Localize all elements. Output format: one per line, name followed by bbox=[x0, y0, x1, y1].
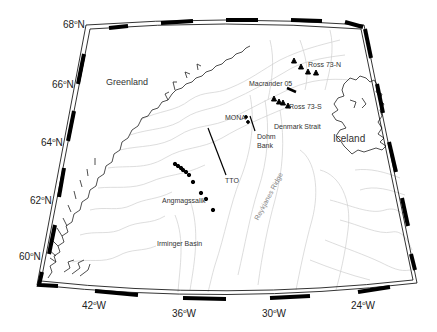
iceland-label: Iceland bbox=[333, 134, 365, 144]
lon-label-24w: 24oW bbox=[351, 300, 375, 311]
dohm-bank-label-line1: Dohm bbox=[257, 133, 276, 140]
lon-label-36w: 36oW bbox=[172, 308, 196, 319]
ross-73-s-label: Ross 73-S bbox=[289, 103, 322, 110]
tto-section-line bbox=[208, 128, 226, 175]
lat-label-62n: 62oN bbox=[30, 195, 52, 206]
denmark-strait-label: Denmark Strait bbox=[274, 123, 321, 130]
tto-label: TTO bbox=[225, 177, 239, 184]
lon-label-42w: 42oW bbox=[82, 300, 106, 311]
map-canvas bbox=[0, 0, 437, 332]
angmagssalik-label: Angmagssalik bbox=[162, 197, 206, 204]
map-frame bbox=[37, 20, 417, 299]
lon-label-30w: 30oW bbox=[262, 308, 286, 319]
mona-label: MONA bbox=[225, 114, 246, 121]
lat-label-66n: 66oN bbox=[52, 79, 74, 90]
ross-73-n-label: Ross 73-N bbox=[308, 61, 341, 68]
macrander-05-label: Macrander 05 bbox=[249, 80, 292, 87]
dohm-bank-label-line2: Bank bbox=[257, 142, 273, 149]
lat-label-68n: 68oN bbox=[63, 19, 85, 30]
greenland-label: Greenland bbox=[106, 78, 148, 87]
lat-label-64n: 64oN bbox=[41, 137, 63, 148]
lat-label-60n: 60oN bbox=[19, 251, 41, 262]
bathymetry-contours bbox=[72, 30, 412, 292]
irminger-basin-label: Irminger Basin bbox=[157, 240, 202, 247]
station-markers bbox=[173, 58, 318, 212]
